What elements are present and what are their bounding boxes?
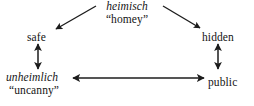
node-public: public bbox=[208, 72, 237, 90]
node-safe: safe bbox=[27, 27, 46, 45]
node-heimisch-gloss: “homey” bbox=[0, 13, 254, 26]
node-public-label: public bbox=[208, 76, 237, 88]
node-heimisch-term: heimisch bbox=[0, 0, 254, 13]
node-unheimlich: unheimlich “uncanny” bbox=[6, 71, 59, 97]
node-hidden-label: hidden bbox=[202, 31, 234, 43]
node-unheimlich-term: unheimlich bbox=[6, 71, 59, 84]
node-unheimlich-gloss: “uncanny” bbox=[9, 84, 59, 97]
node-safe-label: safe bbox=[27, 31, 46, 43]
semantic-triangle-diagram: heimisch “homey” safe hidden unheimlich … bbox=[0, 0, 254, 106]
node-heimisch: heimisch “homey” bbox=[0, 0, 254, 26]
node-hidden: hidden bbox=[202, 27, 234, 45]
